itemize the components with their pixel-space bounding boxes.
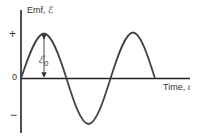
amplitude-label: ℰ0 — [38, 55, 48, 68]
y-tick-minus: − — [10, 109, 17, 121]
emf-time-diagram — [0, 0, 199, 137]
y-axis-label-text: Emf, ℰ — [27, 5, 53, 15]
y-tick-plus: + — [9, 28, 16, 40]
amplitude-subscript: 0 — [44, 59, 48, 68]
y-axis-label: Emf, ℰ — [27, 6, 53, 15]
x-axis-label-text: Time, — [163, 82, 188, 92]
x-axis-var: t — [188, 82, 191, 92]
y-tick-zero: 0 — [12, 73, 17, 82]
x-axis-label: Time, t — [163, 83, 190, 92]
